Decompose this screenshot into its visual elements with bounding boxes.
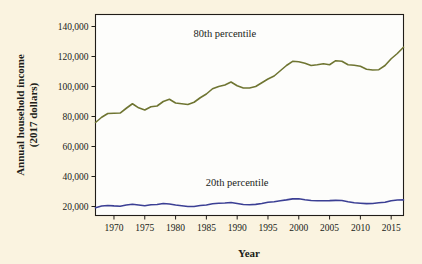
x-tick-label: 2015: [382, 223, 401, 233]
x-tick-label: 1995: [258, 223, 277, 233]
x-tick-label: 2005: [320, 223, 339, 233]
y-tick-label: 120,000: [58, 52, 89, 62]
series-label-80th-percentile: 80th percentile: [194, 28, 257, 39]
y-tick-label: 140,000: [58, 22, 89, 32]
x-tick-label: 1980: [166, 223, 185, 233]
x-tick-label: 2010: [351, 223, 370, 233]
chart-figure: 20,00040,00060,00080,000100,000120,00014…: [0, 0, 422, 264]
x-tick-label: 1990: [228, 223, 247, 233]
x-tick-label: 1985: [197, 223, 216, 233]
series-label-20th-percentile: 20th percentile: [206, 177, 269, 188]
y-axis-title-line2: (2017 dollars): [27, 82, 40, 147]
y-tick-label: 60,000: [62, 142, 88, 152]
x-tick-label: 1975: [135, 223, 154, 233]
x-tick-label: 2000: [289, 223, 308, 233]
y-axis-title-line1: Annual household income: [14, 54, 26, 176]
y-tick-label: 80,000: [62, 112, 88, 122]
y-tick-label: 100,000: [58, 82, 89, 92]
x-axis-title: Year: [238, 247, 260, 259]
x-tick-label: 1970: [104, 223, 123, 233]
y-tick-label: 40,000: [62, 172, 88, 182]
line-chart: 20,00040,00060,00080,000100,000120,00014…: [0, 0, 422, 264]
y-tick-label: 20,000: [62, 202, 88, 212]
